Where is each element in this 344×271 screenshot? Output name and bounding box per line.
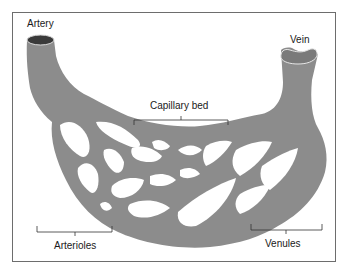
vein-label: Vein — [290, 35, 309, 45]
vessel-network — [27, 40, 327, 248]
arterioles-label: Arterioles — [54, 241, 96, 251]
arterioles-bracket — [37, 226, 112, 236]
artery-lumen — [27, 35, 54, 45]
artery-label: Artery — [27, 19, 54, 29]
capillary-bed-label: Capillary bed — [150, 101, 208, 111]
venules-label: Venules — [265, 239, 301, 249]
